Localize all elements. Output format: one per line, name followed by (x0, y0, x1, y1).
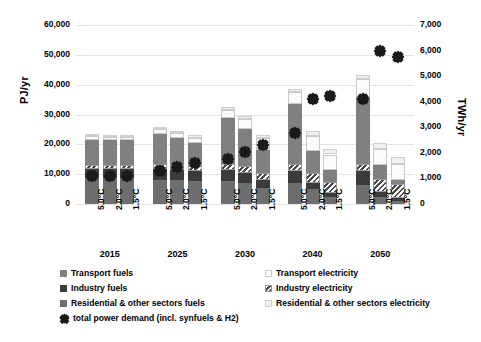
plot-area (76, 25, 414, 204)
y-tick-left-3: 30,000 (24, 110, 70, 119)
legend-row-4: total power demand (incl. synfuels & H2) (60, 313, 460, 328)
total-power-demand-marker (87, 170, 98, 181)
bar-segment-transport_elec (306, 136, 320, 151)
total-power-demand-marker (375, 45, 386, 56)
y-tick-right-0: 7,000 (420, 20, 460, 29)
bar-segment-transport_fuel (356, 97, 370, 164)
x-tick-2025-2.0C: 2.0°C (181, 189, 191, 210)
legend-row-2: Industry fuelsIndustry electricity (60, 283, 460, 298)
total-power-demand-marker (239, 146, 250, 157)
legend-label: Industry electricity (276, 283, 352, 293)
x-group-label-2030: 2030 (211, 249, 279, 259)
bar-segment-industry_elec (256, 173, 270, 180)
x-tick-2025-5.0C: 5.0°C (164, 189, 174, 210)
bar-segment-transport_fuel (85, 140, 99, 165)
bar-segment-industry_fuel (288, 171, 302, 183)
y-tick-right-1: 6,000 (420, 46, 460, 55)
bar-segment-transport_elec (170, 133, 184, 138)
bar-segment-transport_fuel (306, 151, 320, 172)
y-tick-right-7: 0 (420, 199, 460, 208)
legend-swatch-transport_elec (265, 270, 272, 277)
bar-segment-resid_elec (170, 131, 184, 133)
y-tick-left-5: 10,000 (24, 169, 70, 178)
x-tick-2050-2.0C: 2.0°C (384, 189, 394, 210)
bar-segment-resid_elec (103, 135, 117, 137)
bar-segment-transport_fuel (323, 170, 337, 182)
bar-segment-resid_elec (373, 143, 387, 149)
x-tick-2030-1.5C: 1.5°C (267, 189, 277, 210)
total-power-demand-marker (172, 161, 183, 172)
total-power-demand-marker (189, 158, 200, 169)
bar-segment-industry_fuel (221, 170, 235, 181)
bar-segment-industry_elec (221, 164, 235, 170)
legend-label: total power demand (incl. synfuels & H2) (73, 313, 239, 323)
chart-legend: Transport fuelsTransport electricityIndu… (60, 268, 460, 328)
y-tick-right-2: 5,000 (420, 71, 460, 80)
legend-label: Residential & other sectors electricity (276, 298, 430, 308)
bar-segment-transport_fuel (120, 140, 134, 164)
bar-segment-industry_elec (120, 165, 134, 169)
bar-segment-transport_fuel (256, 150, 270, 173)
legend-swatch-industry_fuel (60, 285, 67, 292)
bar-segment-transport_fuel (391, 180, 405, 185)
x-tick-2015-2.0C: 2.0°C (114, 189, 124, 210)
bar-segment-transport_elec (373, 149, 387, 165)
legend-label: Industry fuels (71, 283, 127, 293)
bar-segment-transport_elec (153, 129, 167, 134)
x-tick-2015-1.5C: 1.5°C (131, 189, 141, 210)
total-power-demand-marker (154, 165, 165, 176)
y-tick-left-1: 50,000 (24, 50, 70, 59)
bar-segment-resid_elec (85, 134, 99, 136)
y-tick-right-3: 4,000 (420, 97, 460, 106)
bar-segment-transport_elec (85, 136, 99, 139)
legend-row-1: Transport fuelsTransport electricity (60, 268, 460, 283)
bar-segment-industry_elec (103, 165, 117, 169)
total-power-demand-marker (289, 127, 300, 138)
bar-segment-industry_fuel (356, 171, 370, 184)
bar-segment-resid_elec (288, 89, 302, 92)
x-tick-2050-5.0C: 5.0°C (367, 189, 377, 210)
legend-item-marker[interactable]: total power demand (incl. synfuels & H2) (60, 313, 239, 323)
y-tick-right-4: 3,000 (420, 122, 460, 131)
total-power-demand-marker (122, 170, 133, 181)
y-tick-left-6: 0 (24, 199, 70, 208)
x-group-label-2050: 2050 (346, 249, 414, 259)
diamond-marker-icon (60, 314, 69, 323)
y-tick-right-6: 1,000 (420, 173, 460, 182)
legend-item-industry_elec[interactable]: Industry electricity (265, 283, 352, 293)
legend-swatch-transport_fuel (60, 270, 67, 277)
y-tick-left-4: 20,000 (24, 139, 70, 148)
x-tick-2030-5.0C: 5.0°C (232, 189, 242, 210)
y-tick-left-2: 40,000 (24, 80, 70, 89)
legend-swatch-resid_fuel (60, 300, 67, 307)
bar-segment-resid_elec (323, 149, 337, 155)
total-power-demand-marker (307, 94, 318, 105)
x-tick-2030-2.0C: 2.0°C (249, 189, 259, 210)
bar-segment-transport_elec (288, 92, 302, 105)
bar-segment-industry_elec (306, 173, 320, 183)
bar-segment-transport_elec (391, 164, 405, 179)
y-tick-left-0: 60,000 (24, 20, 70, 29)
x-tick-2040-5.0C: 5.0°C (299, 189, 309, 210)
x-tick-2025-1.5C: 1.5°C (199, 189, 209, 210)
legend-label: Transport fuels (71, 268, 133, 278)
legend-item-transport_elec[interactable]: Transport electricity (265, 268, 358, 278)
bar-segment-resid_elec (391, 157, 405, 164)
legend-item-industry_fuel[interactable]: Industry fuels (60, 283, 127, 293)
bar-segment-resid_elec (188, 135, 202, 138)
total-power-demand-marker (222, 154, 233, 165)
x-tick-2040-1.5C: 1.5°C (334, 189, 344, 210)
bar-segment-industry_elec (85, 165, 99, 169)
bar-segment-transport_elec (103, 137, 117, 140)
legend-item-transport_fuel[interactable]: Transport fuels (60, 268, 133, 278)
bar-segment-resid_elec (221, 107, 235, 110)
bar-segment-industry_fuel (238, 173, 252, 183)
legend-item-resid_elec[interactable]: Residential & other sectors electricity (265, 298, 430, 308)
legend-label: Residential & other sectors fuels (71, 298, 205, 308)
total-power-demand-marker (257, 140, 268, 151)
x-tick-2015-5.0C: 5.0°C (96, 189, 106, 210)
legend-label: Transport electricity (276, 268, 358, 278)
legend-item-resid_fuel[interactable]: Residential & other sectors fuels (60, 298, 205, 308)
bar-segment-resid_elec (120, 135, 134, 137)
legend-swatch-resid_elec (265, 300, 272, 307)
